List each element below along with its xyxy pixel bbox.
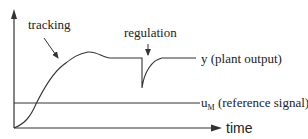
control-response-diagram: tracking regulation y (plant output) uM … xyxy=(0,0,308,139)
plant-output-curve xyxy=(14,52,196,128)
reference-signal-label: uM (reference signal) xyxy=(201,95,308,112)
regulation-label: regulation xyxy=(124,25,177,40)
plant-output-label: y (plant output) xyxy=(201,51,282,66)
y-axis-arrow-icon xyxy=(11,9,17,19)
reference-description: (reference signal) xyxy=(215,95,308,110)
reference-subscript: M xyxy=(208,103,215,112)
time-axis-label: time xyxy=(226,120,253,136)
time-axis-arrow-icon xyxy=(211,125,222,132)
tracking-label: tracking xyxy=(28,17,71,32)
tracking-arrow-icon xyxy=(44,38,58,58)
